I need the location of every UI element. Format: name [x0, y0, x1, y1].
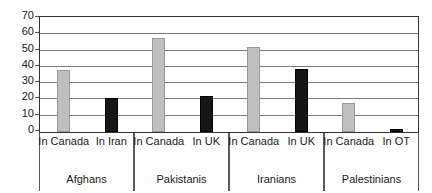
bar-chart: 010203040506070 In CanadaIn IranAfghansI… — [0, 0, 432, 193]
gridline — [40, 82, 418, 83]
y-axis-tick-mark — [35, 81, 39, 82]
bar — [342, 103, 355, 132]
bar — [295, 69, 308, 133]
y-axis-tick-label: 0 — [0, 124, 34, 135]
category-label-table: In CanadaIn IranAfghansIn CanadaIn UKPak… — [39, 133, 419, 191]
group-label: Iranians — [257, 172, 296, 186]
gridline — [40, 66, 418, 67]
category-group-cell: In CanadaIn IranAfghans — [39, 133, 134, 191]
group-label: Pakistanis — [156, 172, 206, 186]
gridline — [40, 50, 418, 51]
group-label-row: Pakistanis — [135, 166, 228, 191]
y-axis-tick-label: 40 — [0, 59, 34, 70]
category-group-cell: In CanadaIn UKPakistanis — [134, 133, 229, 191]
series-label-row: In CanadaIn UK — [230, 133, 323, 166]
bar — [57, 70, 70, 132]
group-label-row: Iranians — [230, 166, 323, 191]
group-label-row: Afghans — [40, 166, 133, 191]
y-axis-tick-mark — [35, 114, 39, 115]
y-axis-tick-mark — [35, 97, 39, 98]
bar — [200, 96, 213, 132]
group-label: Afghans — [66, 172, 106, 186]
category-group-cell: In CanadaIn OTPalestinians — [324, 133, 419, 191]
y-axis-tick-mark — [35, 16, 39, 17]
y-axis-tick-label: 70 — [0, 10, 34, 21]
bar — [152, 38, 165, 132]
series-label: In OT — [365, 134, 429, 148]
y-axis-tick-mark — [35, 65, 39, 66]
y-axis-tick-mark — [35, 32, 39, 33]
group-label: Palestinians — [342, 172, 401, 186]
category-group-cell: In CanadaIn UKIranians — [229, 133, 324, 191]
bar — [247, 47, 260, 132]
bar — [390, 129, 403, 132]
series-label-row: In CanadaIn Iran — [40, 133, 133, 166]
gridline — [40, 33, 418, 34]
bar — [105, 98, 118, 132]
series-label-row: In CanadaIn OT — [325, 133, 418, 166]
group-label-row: Palestinians — [325, 166, 418, 191]
y-axis: 010203040506070 — [0, 0, 34, 193]
plot-area — [39, 16, 419, 133]
y-axis-tick-label: 60 — [0, 26, 34, 37]
y-axis-tick-label: 50 — [0, 43, 34, 54]
y-axis-tick-label: 30 — [0, 75, 34, 86]
y-axis-tick-mark — [35, 130, 39, 131]
series-label-row: In CanadaIn UK — [135, 133, 228, 166]
y-axis-tick-label: 10 — [0, 108, 34, 119]
y-axis-tick-label: 20 — [0, 91, 34, 102]
gridline — [40, 98, 418, 99]
y-axis-tick-mark — [35, 49, 39, 50]
gridline — [40, 115, 418, 116]
